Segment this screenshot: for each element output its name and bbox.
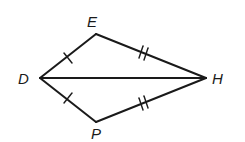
- segment-DP: [40, 78, 96, 122]
- point-label-D: D: [18, 70, 29, 87]
- diagram-canvas: E D H P: [0, 0, 245, 142]
- segment-DE: [40, 34, 96, 78]
- segment-EH: [96, 34, 206, 78]
- kite-diagram: E D H P: [0, 0, 245, 142]
- point-label-E: E: [87, 13, 98, 30]
- point-label-H: H: [212, 70, 223, 87]
- segment-PH: [96, 78, 206, 122]
- point-label-P: P: [91, 125, 101, 142]
